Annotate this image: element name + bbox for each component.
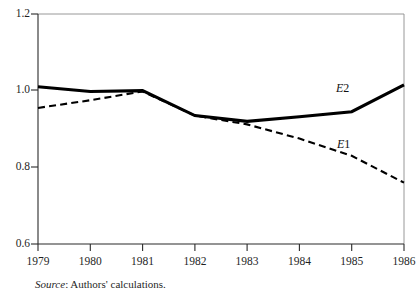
y-tick-label-0-6: 0.6 [2,238,30,250]
source-note: Source: Authors' calculations. [35,279,166,290]
y-tick-label-1-2: 1.2 [2,8,30,20]
series-annotation-e2: E2 [336,82,349,94]
y-tick-label-0-8: 0.8 [2,161,30,173]
x-tick-label-1985: 1985 [327,256,377,268]
x-tick-label-1981: 1981 [118,256,168,268]
series-annotation-e1: E1 [337,138,350,150]
x-tick-label-1986: 1986 [379,256,420,268]
source-note-label: Source [35,278,65,290]
x-tick-label-1984: 1984 [274,256,324,268]
x-tick-label-1980: 1980 [65,256,115,268]
x-axis-ticks [38,244,404,251]
x-tick-label-1982: 1982 [170,256,220,268]
series-lines [38,85,404,183]
y-tick-label-1-0: 1.0 [2,84,30,96]
source-note-body: Authors' calculations. [68,278,166,290]
series-annotation-e2-plain: 2 [343,81,349,95]
series-annotation-e1-plain: 1 [344,137,350,151]
x-tick-label-1983: 1983 [222,256,272,268]
plot-frame [38,14,404,244]
y-axis-ticks [31,14,38,244]
x-tick-label-1979: 1979 [13,256,63,268]
